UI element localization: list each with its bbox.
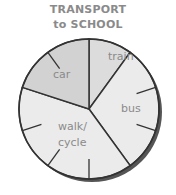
label-train: train [108,50,134,63]
label-bus: bus [121,102,141,115]
pie-chart: train bus walk/ cycle car [0,0,176,195]
label-car: car [53,68,71,81]
label-walk: walk/ [58,120,87,133]
label-cycle: cycle [58,136,87,149]
